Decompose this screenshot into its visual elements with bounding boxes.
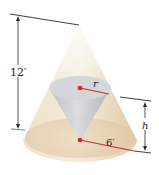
outer-height-label: 12′: [10, 66, 27, 79]
arrow-down-icon: [143, 146, 147, 151]
outer-radius-label: 6′: [106, 137, 115, 148]
arrow-down-icon: [16, 124, 20, 129]
arrow-up-icon: [16, 16, 20, 21]
inner-top-center-dot: [78, 86, 83, 91]
outer-base-center-dot: [78, 138, 83, 143]
bottom-tick: [11, 129, 25, 130]
inner-height-label: h: [142, 120, 148, 131]
arrow-up-icon: [143, 102, 147, 107]
cone-diagram: 12′ r 6′ h: [0, 0, 159, 175]
